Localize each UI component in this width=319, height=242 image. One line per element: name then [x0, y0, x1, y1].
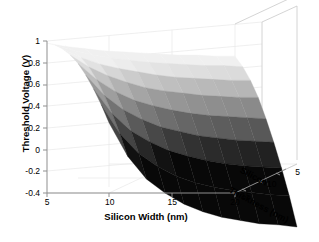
y-tick-label: 10 — [267, 179, 277, 189]
z-axis-ticks — [43, 41, 47, 193]
y-tick-label: 5 — [295, 167, 300, 177]
x-axis-title: Silicon Width (nm) — [66, 211, 226, 222]
x-tick-label: 15 — [168, 197, 178, 207]
z-tick-label: 1 — [35, 36, 40, 46]
z-tick-label: 0 — [35, 145, 40, 155]
x-tick-label: 5 — [45, 197, 50, 207]
z-tick-label: -0.4 — [25, 188, 40, 198]
x-tick-label: 10 — [105, 197, 115, 207]
figure-3d-surface-plot: -0.4-0.200.20.40.60.81 5101520 15105 Thr… — [0, 0, 319, 242]
z-axis-title: Threshold Voltage (V) — [20, 34, 31, 174]
